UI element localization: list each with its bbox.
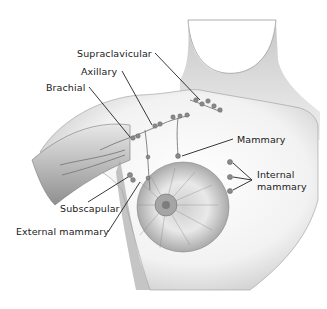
label-brachial: Brachial [46,82,85,93]
anatomy-illustration [0,0,327,309]
label-supraclavicular: Supraclavicular [77,48,152,59]
breast [137,162,229,252]
nipple [162,201,170,209]
arm [32,124,130,205]
label-mammary: Mammary [237,134,286,145]
label-external-mammary: External mammary [16,226,109,237]
lymph-node-diagram: Supraclavicular Axillary Brachial Mammar… [0,0,327,309]
label-subscapular: Subscapular [60,203,120,214]
label-internal-mammary-line2: mammary [257,181,307,192]
label-internal-mammary-line1: Internal [257,169,294,180]
label-axillary: Axillary [81,66,117,77]
